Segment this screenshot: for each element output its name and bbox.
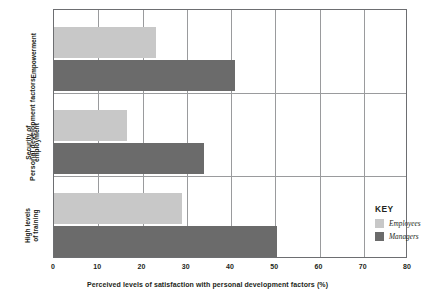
category-label-high-levels-of-training: High levels of training [24, 183, 39, 269]
x-axis-tick-0: 0 [38, 263, 68, 270]
legend-label-managers: Managers [389, 232, 419, 241]
category-label-line-1: High levels [24, 208, 31, 243]
bar-high-levels-of-training-employees [54, 193, 182, 224]
plot-area: KEY Employees Managers [53, 9, 407, 258]
category-label-line-2: employment [33, 100, 41, 186]
x-axis-tick-50: 50 [259, 263, 289, 270]
legend-label-employees: Employees [389, 219, 421, 228]
x-axis-tick-20: 20 [127, 263, 157, 270]
x-axis-tick-70: 70 [348, 263, 378, 270]
bar-security-of-employment-employees [54, 110, 127, 141]
gridline-vertical-50 [275, 10, 276, 257]
legend: KEY Employees Managers [375, 204, 425, 245]
bar-high-levels-of-training-managers [54, 226, 277, 257]
x-axis-tick-10: 10 [82, 263, 112, 270]
x-axis-title: Perceived levels of satisfaction with pe… [0, 281, 415, 288]
legend-item-employees: Employees [375, 219, 425, 228]
gridline-vertical-40 [231, 10, 232, 257]
gridline-vertical-70 [364, 10, 365, 257]
category-label-line-2: of training [32, 183, 40, 269]
bar-empowerment-managers [54, 60, 235, 91]
gridline-vertical-30 [187, 10, 188, 257]
legend-title: KEY [375, 204, 425, 214]
category-label-line-1: Security of [25, 126, 32, 160]
category-label-line-1: Empowerment [30, 33, 37, 78]
x-axis-tick-80: 80 [392, 263, 422, 270]
gridline-vertical-60 [320, 10, 321, 257]
bar-empowerment-employees [54, 27, 156, 58]
gridline-horizontal-2 [54, 176, 406, 177]
legend-swatch-managers [375, 232, 384, 241]
x-axis-tick-30: 30 [171, 263, 201, 270]
gridline-horizontal-1 [54, 93, 406, 94]
legend-swatch-employees [375, 219, 384, 228]
legend-item-managers: Managers [375, 232, 425, 241]
category-label-security-of-employment: Security of employment [25, 100, 40, 186]
x-axis-tick-40: 40 [215, 263, 245, 270]
x-axis-tick-60: 60 [304, 263, 334, 270]
bar-security-of-employment-managers [54, 143, 204, 174]
category-label-empowerment: Empowerment [30, 13, 38, 99]
